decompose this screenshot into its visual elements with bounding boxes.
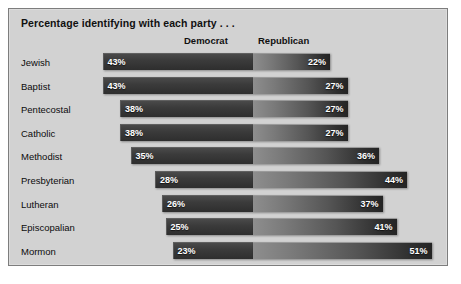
- bar-value-republican: 36%: [357, 151, 375, 161]
- bar-value-democrat: 35%: [136, 151, 154, 161]
- bar-group: 43%27%: [103, 77, 348, 94]
- bar-segment-republican: 27%: [253, 77, 348, 94]
- chart-row: Episcopalian25%41%: [9, 216, 449, 240]
- bar-group: 38%27%: [120, 124, 348, 141]
- bar-segment-democrat: 35%: [131, 147, 254, 164]
- bar-segment-republican: 27%: [253, 124, 348, 141]
- chart-row: Presbyterian28%44%: [9, 169, 449, 193]
- bar-segment-democrat: 26%: [162, 195, 253, 212]
- row-label-pentecostal: Pentecostal: [21, 104, 71, 115]
- bar-value-democrat: 26%: [167, 199, 185, 209]
- row-label-mormon: Mormon: [21, 246, 56, 257]
- bar-value-democrat: 38%: [125, 128, 143, 138]
- bar-segment-republican: 27%: [253, 100, 348, 117]
- row-label-catholic: Catholic: [21, 128, 55, 139]
- row-label-baptist: Baptist: [21, 81, 50, 92]
- bar-segment-democrat: 25%: [166, 218, 254, 235]
- row-label-episcopalian: Episcopalian: [21, 222, 75, 233]
- bar-group: 23%51%: [173, 242, 432, 259]
- column-header-republican: Republican: [258, 35, 309, 46]
- chart-row: Catholic38%27%: [9, 122, 449, 146]
- bar-segment-democrat: 43%: [103, 53, 254, 70]
- bar-segment-democrat: 38%: [120, 124, 253, 141]
- bar-segment-republican: 41%: [253, 218, 397, 235]
- column-header-democrat: Democrat: [184, 35, 228, 46]
- bar-value-republican: 27%: [325, 81, 343, 91]
- bar-segment-republican: 44%: [253, 171, 407, 188]
- chart-panel: Percentage identifying with each party .…: [8, 8, 448, 266]
- bar-value-democrat: 25%: [171, 222, 189, 232]
- bar-value-democrat: 28%: [160, 175, 178, 185]
- bar-group: 43%22%: [103, 53, 331, 70]
- chart-row: Lutheran26%37%: [9, 193, 449, 217]
- bar-value-democrat: 43%: [108, 81, 126, 91]
- bar-segment-democrat: 43%: [103, 77, 254, 94]
- bar-segment-democrat: 28%: [155, 171, 253, 188]
- bar-segment-democrat: 38%: [120, 100, 253, 117]
- bar-value-republican: 27%: [325, 104, 343, 114]
- bar-value-democrat: 43%: [108, 57, 126, 67]
- row-label-jewish: Jewish: [21, 57, 50, 68]
- row-label-methodist: Methodist: [21, 151, 62, 162]
- page-title: Percentage identifying with each party .…: [21, 17, 235, 29]
- bar-value-republican: 27%: [325, 128, 343, 138]
- bar-group: 26%37%: [162, 195, 383, 212]
- bar-group: 28%44%: [155, 171, 407, 188]
- bar-group: 35%36%: [131, 147, 380, 164]
- bar-value-republican: 22%: [308, 57, 326, 67]
- bar-group: 25%41%: [166, 218, 397, 235]
- bar-segment-republican: 36%: [253, 147, 379, 164]
- row-label-presbyterian: Presbyterian: [21, 175, 74, 186]
- chart-row: Methodist35%36%: [9, 145, 449, 169]
- chart-row: Baptist43%27%: [9, 75, 449, 99]
- row-label-lutheran: Lutheran: [21, 199, 59, 210]
- chart-row: Jewish43%22%: [9, 51, 449, 75]
- bar-segment-republican: 37%: [253, 195, 383, 212]
- chart-rows-area: Jewish43%22%Baptist43%27%Pentecostal38%2…: [9, 51, 449, 265]
- bar-value-republican: 51%: [409, 246, 427, 256]
- bar-value-republican: 44%: [385, 175, 403, 185]
- chart-row: Mormon23%51%: [9, 240, 449, 264]
- bar-value-republican: 37%: [360, 199, 378, 209]
- bar-value-democrat: 38%: [125, 104, 143, 114]
- bar-value-democrat: 23%: [178, 246, 196, 256]
- bar-segment-republican: 22%: [253, 53, 330, 70]
- bar-value-republican: 41%: [374, 222, 392, 232]
- chart-row: Pentecostal38%27%: [9, 98, 449, 122]
- bar-segment-republican: 51%: [253, 242, 432, 259]
- bar-segment-democrat: 23%: [173, 242, 254, 259]
- bar-group: 38%27%: [120, 100, 348, 117]
